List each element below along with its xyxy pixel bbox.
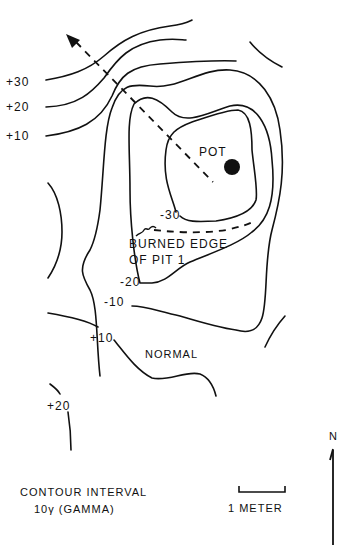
- label-minus-20: -20: [120, 275, 140, 289]
- pot-marker-icon: [224, 159, 240, 175]
- contour-plus-30: [46, 20, 192, 80]
- label-plus-20-bottom: +20: [47, 399, 70, 413]
- legend-gamma: 10γ (GAMMA): [34, 503, 115, 515]
- contour-right-arc: [265, 316, 285, 347]
- contour-minus-30: [165, 110, 256, 221]
- profile-line: [76, 42, 213, 182]
- label-pot: POT: [199, 145, 227, 159]
- label-burned-edge-1: BURNED EDGE: [129, 237, 228, 251]
- label-plus-10-top: +10: [6, 129, 29, 143]
- contour-plus-20-top: [46, 39, 186, 107]
- contour-plus-20-bottom-tail: [68, 412, 71, 450]
- label-plus-20-top: +20: [6, 100, 29, 114]
- label-plus-10-bottom: +10: [90, 331, 113, 345]
- arrow-head-icon: [66, 34, 80, 48]
- contour-map: +30 +20 +10 -30 -20 -10 +10 +20 POT BURN…: [0, 0, 353, 558]
- label-minus-10: -10: [104, 295, 124, 309]
- scale-bar: [239, 486, 285, 492]
- squiggle-arrow-icon: [136, 227, 156, 237]
- label-burned-edge-2: OF PIT 1: [129, 253, 185, 267]
- label-plus-30: +30: [6, 75, 29, 89]
- scale-label: 1 METER: [228, 502, 283, 514]
- label-normal: NORMAL: [145, 348, 198, 360]
- legend-contour-interval: CONTOUR INTERVAL: [20, 486, 147, 498]
- contour-left-arc: [48, 183, 62, 278]
- contour-plus-20-bottom: [50, 384, 60, 394]
- contour-top-right-arc: [250, 42, 282, 67]
- label-minus-30: -30: [160, 208, 180, 222]
- contour-plus-10-bottom: [48, 313, 98, 327]
- north-label: N: [329, 430, 338, 442]
